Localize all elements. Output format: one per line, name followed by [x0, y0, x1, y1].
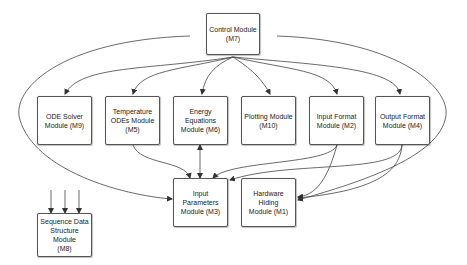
- node-control-module-m7: Control Module (M7): [206, 13, 260, 55]
- node-output-format-module-m4: Output Format Module (M4): [375, 96, 430, 145]
- edge-m2-m1: [298, 145, 337, 197]
- node-label: Control Module (M7): [209, 25, 256, 43]
- node-label: Energy Equations Module (M6): [176, 107, 225, 134]
- edge-m2-m3: [213, 145, 337, 178]
- node-label: Output Format Module (M4): [380, 112, 425, 130]
- edge-m7-m10: [233, 57, 270, 94]
- edge-m7-m5: [133, 57, 233, 94]
- edge-m4-m3: [230, 145, 402, 180]
- node-label: Temperature ODEs Module (M5): [111, 107, 155, 134]
- node-input-parameters-module-m3: Input Parameters Module (M3): [173, 178, 228, 227]
- node-input-format-module-m2: Input Format Module (M2): [309, 96, 364, 145]
- node-label: Plotting Module (M10): [244, 112, 292, 130]
- node-label: Input Parameters Module (M3): [176, 189, 225, 216]
- node-temperature-odes-module-m5: Temperature ODEs Module (M5): [105, 96, 160, 145]
- node-hardware-hiding-module-m1: Hardware Hiding Module (M1): [241, 178, 296, 227]
- node-label: Input Format Module (M2): [317, 112, 357, 130]
- node-label: Sequence Data Structure Module (M8): [40, 217, 89, 253]
- edge-m4-m1: [298, 145, 402, 198]
- edge-m7-m2: [233, 57, 337, 94]
- node-label: Hardware Hiding Module (M1): [244, 189, 293, 216]
- node-label: ODE Solver Module (M9): [45, 112, 84, 130]
- node-plotting-module-m10: Plotting Module (M10): [241, 96, 296, 145]
- edge-m5-m3: [133, 145, 190, 178]
- node-energy-equations-module-m6: Energy Equations Module (M6): [173, 96, 228, 145]
- node-ode-solver-module-m9: ODE Solver Module (M9): [37, 96, 92, 145]
- node-sequence-data-structure-module-m8: Sequence Data Structure Module (M8): [37, 213, 92, 257]
